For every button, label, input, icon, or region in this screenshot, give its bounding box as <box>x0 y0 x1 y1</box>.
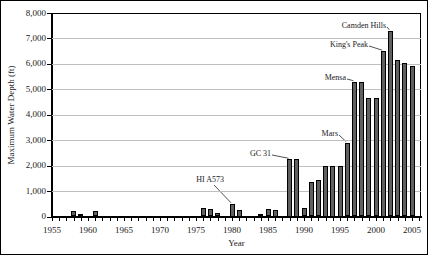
x-tick-mark <box>261 218 262 221</box>
bar-1989 <box>294 159 299 216</box>
x-tick-label-1980: 1980 <box>217 225 247 235</box>
bar-1993 <box>323 166 328 217</box>
x-tick-label-1970: 1970 <box>145 225 175 235</box>
x-tick-mark <box>59 218 60 221</box>
x-tick-mark <box>174 218 175 221</box>
bar-2003 <box>395 60 400 216</box>
x-tick-mark <box>232 218 233 221</box>
x-tick-mark <box>66 218 67 221</box>
bar-2004 <box>402 63 407 217</box>
y-tick-label: 5,000 <box>1 85 46 94</box>
bar-1995 <box>338 166 343 217</box>
x-tick-mark <box>210 218 211 221</box>
x-tick-mark <box>297 218 298 221</box>
x-tick-label-1990: 1990 <box>289 225 319 235</box>
y-tick-label: 4,000 <box>1 110 46 119</box>
bar-1980 <box>230 204 235 217</box>
x-tick-mark <box>225 218 226 221</box>
x-tick-label-1960: 1960 <box>73 225 103 235</box>
bar-1997 <box>352 82 357 217</box>
x-tick-mark <box>282 218 283 221</box>
y-tick-mark <box>47 89 51 90</box>
bar-2000 <box>374 98 379 216</box>
bar-1998 <box>359 82 364 217</box>
x-tick-mark <box>74 218 75 221</box>
x-tick-mark <box>254 218 255 221</box>
x-tick-mark <box>246 218 247 221</box>
annotation-king-s-peak: King's Peak <box>330 40 368 49</box>
x-tick-mark <box>52 218 53 221</box>
x-tick-mark <box>304 218 305 221</box>
x-axis-title: Year <box>52 238 421 248</box>
bar-1958 <box>71 211 76 216</box>
bar-2005 <box>410 66 415 216</box>
y-tick-label: 0 <box>1 212 46 221</box>
x-tick-mark <box>146 218 147 221</box>
x-tick-label-1995: 1995 <box>325 225 355 235</box>
bar-1986 <box>273 210 278 216</box>
bar-1996 <box>345 143 350 217</box>
x-tick-mark <box>311 218 312 221</box>
y-tick-mark <box>47 13 51 14</box>
bar-1978 <box>215 213 220 217</box>
x-tick-mark <box>412 218 413 221</box>
x-tick-mark <box>376 218 377 221</box>
x-tick-mark <box>362 218 363 221</box>
bar-1981 <box>237 210 242 216</box>
x-tick-mark <box>318 218 319 221</box>
y-tick-mark <box>47 64 51 65</box>
x-tick-mark <box>347 218 348 221</box>
x-tick-mark <box>102 218 103 221</box>
bar-1999 <box>366 98 371 216</box>
x-tick-mark <box>390 218 391 221</box>
x-tick-mark <box>95 218 96 221</box>
x-tick-mark <box>81 218 82 221</box>
y-tick-mark <box>47 140 51 141</box>
x-tick-mark <box>340 218 341 221</box>
x-tick-mark <box>189 218 190 221</box>
x-tick-mark <box>398 218 399 221</box>
bar-chart: Maximum Water Depth (ft) Year 01,0002,00… <box>0 0 428 255</box>
bar-1977 <box>208 209 213 217</box>
y-tick-label: 8,000 <box>1 9 46 18</box>
x-tick-mark <box>383 218 384 221</box>
x-tick-mark <box>333 218 334 221</box>
x-tick-mark <box>160 218 161 221</box>
x-tick-mark <box>419 218 420 221</box>
bar-1990 <box>302 208 307 217</box>
x-tick-label-1955: 1955 <box>37 225 67 235</box>
annotation-camden-hills: Camden Hills <box>342 21 386 30</box>
bar-2001 <box>381 51 386 216</box>
x-tick-label-2000: 2000 <box>361 225 391 235</box>
bar-1959 <box>78 214 83 217</box>
x-tick-label-1975: 1975 <box>181 225 211 235</box>
x-tick-mark <box>124 218 125 221</box>
y-tick-label: 7,000 <box>1 34 46 43</box>
y-tick-label: 1,000 <box>1 187 46 196</box>
x-tick-mark <box>369 218 370 221</box>
x-tick-mark <box>196 218 197 221</box>
y-tick-mark <box>47 191 51 192</box>
x-tick-mark <box>88 218 89 221</box>
bar-1961 <box>93 211 98 216</box>
annotation-mensa: Mensa <box>325 73 346 82</box>
x-tick-label-1965: 1965 <box>109 225 139 235</box>
x-tick-mark <box>268 218 269 221</box>
x-tick-mark <box>110 218 111 221</box>
bar-2002 <box>388 31 393 217</box>
bar-1991 <box>309 182 314 216</box>
y-tick-label: 2,000 <box>1 161 46 170</box>
y-tick-label: 6,000 <box>1 59 46 68</box>
bar-1976 <box>201 208 206 217</box>
bar-1994 <box>330 166 335 217</box>
annotation-mars: Mars <box>322 129 338 138</box>
x-tick-label-1985: 1985 <box>253 225 283 235</box>
bar-1988 <box>287 159 292 216</box>
gridline-5000 <box>52 89 421 90</box>
bar-1992 <box>316 180 321 217</box>
y-tick-mark <box>47 38 51 39</box>
x-tick-mark <box>167 218 168 221</box>
annotation-hi-a573: HI A573 <box>196 175 224 184</box>
x-tick-mark <box>290 218 291 221</box>
x-tick-mark <box>354 218 355 221</box>
